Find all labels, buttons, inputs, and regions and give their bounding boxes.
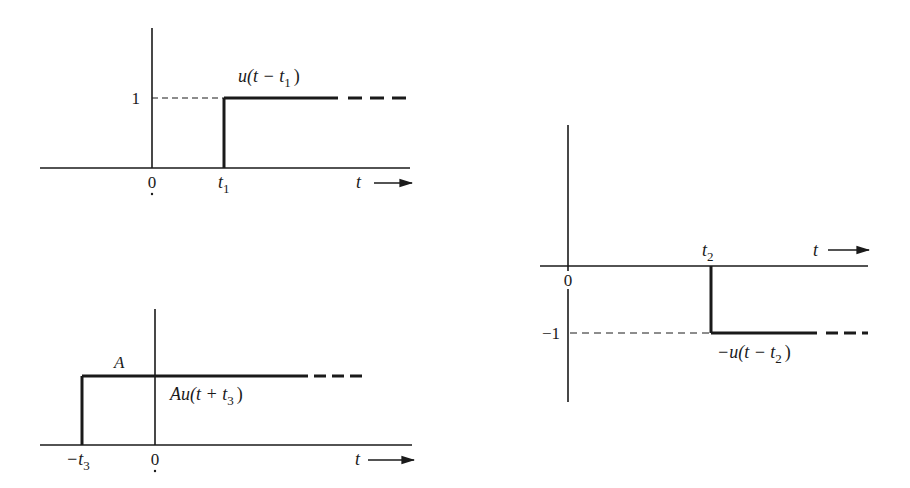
- step-time-label: −t3: [66, 449, 90, 473]
- function-label: u(t − t1): [238, 66, 300, 90]
- function-label: −u(t − t2): [717, 342, 791, 366]
- time-axis-label: t: [813, 240, 819, 260]
- diagram-negative-shifted-step: −1 0 t2 −u(t − t2) t: [540, 125, 869, 402]
- level-label: A: [113, 353, 125, 372]
- origin-label: 0: [151, 450, 160, 469]
- origin-label: 0: [148, 173, 157, 192]
- origin-tick-dot: [154, 470, 156, 472]
- level-label: 1: [132, 89, 141, 108]
- time-axis-label: t: [356, 172, 362, 192]
- origin-label: 0: [564, 271, 573, 290]
- diagram-scaled-advanced-step: A 0 −t3 Au(t + t3) t: [40, 309, 414, 473]
- diagram-shifted-step: 1 0 t1 u(t − t1) t: [40, 28, 412, 196]
- level-label: −1: [542, 324, 560, 343]
- step-time-label: t2: [702, 240, 714, 264]
- time-axis-label: t: [355, 449, 361, 469]
- origin-tick-dot: [151, 193, 153, 195]
- step-time-label: t1: [218, 172, 230, 196]
- function-label: Au(t + t3): [169, 384, 243, 408]
- step-function-figure: 1 0 t1 u(t − t1) t −1 0 t2 −u(t − t2) t: [0, 0, 910, 488]
